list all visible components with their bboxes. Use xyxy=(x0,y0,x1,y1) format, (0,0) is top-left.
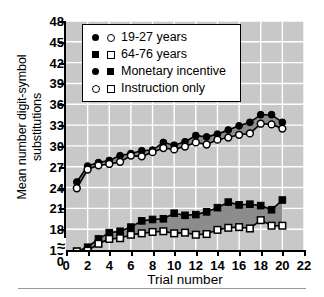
data-point-circle-filled xyxy=(268,111,275,118)
circle-filled-icon xyxy=(88,68,103,75)
legend: 19-27 years64-76 yearsMonetary incentive… xyxy=(82,24,241,102)
data-point-square-open xyxy=(247,225,254,232)
data-point-square-open xyxy=(128,231,135,238)
square-open-icon xyxy=(103,51,118,59)
data-point-circle-open xyxy=(149,149,156,156)
square-open-glyph xyxy=(107,85,115,93)
x-tick-mark xyxy=(66,250,68,256)
y-tick-mark xyxy=(59,42,65,44)
y-tick-mark xyxy=(59,146,65,148)
legend-label: Monetary incentive xyxy=(121,65,226,78)
data-point-circle-open xyxy=(117,158,124,165)
data-point-circle-filled xyxy=(257,111,264,118)
data-point-square-open xyxy=(268,222,275,229)
data-point-square-open xyxy=(193,231,200,238)
data-point-square-open xyxy=(279,222,286,229)
square-filled-icon xyxy=(103,68,118,75)
x-tick-mark xyxy=(174,250,176,256)
data-point-circle-filled xyxy=(225,127,232,134)
legend-item-1: 64-76 years xyxy=(88,46,234,63)
square-filled-icon xyxy=(88,51,103,58)
square-filled-glyph xyxy=(107,68,114,75)
series-1 xyxy=(73,120,285,191)
y-tick-mark xyxy=(59,188,65,190)
data-point-circle-open xyxy=(73,185,80,192)
y-tick-mark xyxy=(59,63,65,65)
data-point-circle-open xyxy=(106,161,113,168)
data-point-square-filled xyxy=(128,224,135,231)
y-tick-mark xyxy=(59,229,65,231)
data-point-square-filled xyxy=(160,215,167,222)
data-point-square-filled xyxy=(236,202,243,209)
circle-filled-icon xyxy=(88,34,103,41)
legend-item-0: 19-27 years xyxy=(88,29,234,46)
data-point-circle-open xyxy=(203,141,210,148)
data-point-square-filled xyxy=(193,211,200,218)
y-tick-mark xyxy=(59,208,65,210)
x-tick-mark xyxy=(153,250,155,256)
data-point-square-filled xyxy=(171,210,178,217)
data-point-circle-open xyxy=(138,153,145,160)
circle-open-icon xyxy=(103,34,118,42)
y-tick-mark xyxy=(59,104,65,106)
x-tick-label: 22 xyxy=(291,259,317,272)
data-point-circle-open xyxy=(95,162,102,169)
square-filled-glyph xyxy=(92,51,99,58)
square-open-icon xyxy=(103,85,118,93)
data-point-square-filled xyxy=(247,201,254,208)
data-point-square-open xyxy=(149,229,156,236)
data-point-circle-open xyxy=(225,134,232,141)
figure-bottom-rule xyxy=(18,288,306,289)
data-point-square-open xyxy=(138,230,145,237)
circle-filled-glyph xyxy=(92,68,99,75)
data-point-circle-open xyxy=(182,143,189,150)
legend-label: Instruction only xyxy=(121,82,205,95)
circle-open-glyph xyxy=(107,34,115,42)
circle-open-icon xyxy=(88,85,103,93)
data-point-square-open xyxy=(95,240,102,247)
data-point-circle-open xyxy=(171,146,178,153)
legend-label: 64-76 years xyxy=(121,48,187,61)
y-tick-mark xyxy=(59,125,65,127)
data-point-square-filled xyxy=(117,228,124,235)
data-point-circle-open xyxy=(214,136,221,143)
data-point-square-filled xyxy=(268,206,275,213)
x-tick-mark xyxy=(131,250,133,256)
data-point-square-filled xyxy=(182,212,189,219)
data-point-square-filled xyxy=(257,202,264,209)
x-tick-mark xyxy=(261,250,263,256)
data-point-circle-open xyxy=(247,130,254,137)
y-tick-mark xyxy=(59,167,65,169)
figure: Mean number digit-symbol substitutions 1… xyxy=(0,0,324,297)
data-point-square-open xyxy=(182,229,189,236)
x-axis-label: Trial number xyxy=(66,272,304,287)
data-point-circle-open xyxy=(279,125,286,132)
y-tick-mark xyxy=(59,21,65,23)
data-point-circle-open xyxy=(268,121,275,128)
legend-label: 19-27 years xyxy=(121,31,187,44)
square-open-glyph xyxy=(107,51,115,59)
data-point-square-open xyxy=(160,228,167,235)
data-point-square-filled xyxy=(225,199,232,206)
x-tick-mark xyxy=(88,250,90,256)
data-point-square-open xyxy=(203,231,210,238)
data-point-circle-open xyxy=(236,131,243,138)
data-point-square-filled xyxy=(279,197,286,204)
x-tick-mark xyxy=(239,250,241,256)
data-point-square-filled xyxy=(203,209,210,216)
data-point-circle-filled xyxy=(247,119,254,126)
data-point-square-open xyxy=(214,227,221,234)
data-point-circle-open xyxy=(84,166,91,173)
data-point-circle-filled xyxy=(203,133,210,140)
x-tick-mark xyxy=(304,250,306,256)
data-point-circle-filled xyxy=(236,122,243,129)
data-point-square-open xyxy=(117,235,124,242)
data-point-circle-open xyxy=(257,120,264,127)
circle-open-glyph xyxy=(92,85,100,93)
data-point-square-filled xyxy=(138,218,145,225)
data-point-square-open xyxy=(106,236,113,243)
y-axis-line xyxy=(64,21,66,250)
y-tick-mark xyxy=(59,83,65,85)
x-tick-mark xyxy=(217,250,219,256)
data-point-circle-open xyxy=(160,145,167,152)
